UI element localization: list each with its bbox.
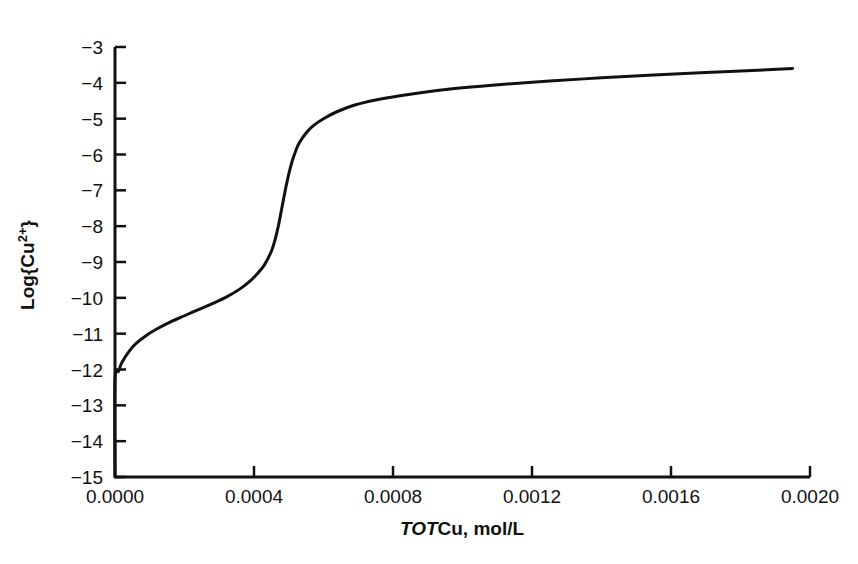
x-tick-label: 0.0004 xyxy=(225,486,284,507)
x-tick-label: 0.0012 xyxy=(503,486,561,507)
x-axis-title: TOTCu, mol/L xyxy=(400,518,525,539)
log-cu-titration-chart: −3−4−5−6−7−8−9−10−11−12−13−14−15 0.00000… xyxy=(0,0,858,564)
y-tick-label: −15 xyxy=(71,467,103,488)
y-tick-label: −13 xyxy=(71,395,103,416)
x-tick-label: 0.0008 xyxy=(364,486,422,507)
y-axis-title-tail: } xyxy=(17,220,38,228)
y-tick-label: −9 xyxy=(81,252,103,273)
x-axis-title-rest: Cu, mol/L xyxy=(438,518,525,539)
chart-background xyxy=(0,0,858,564)
x-axis-title-italic: TOT xyxy=(400,518,439,539)
svg-text:TOTCu, mol/L: TOTCu, mol/L xyxy=(400,518,525,539)
y-axis-title-superscript: 2+ xyxy=(15,227,30,242)
y-tick-label: −8 xyxy=(81,216,103,237)
y-tick-label: −14 xyxy=(71,431,104,452)
chart-figure: −3−4−5−6−7−8−9−10−11−12−13−14−15 0.00000… xyxy=(0,0,858,564)
x-tick-label: 0.0020 xyxy=(781,486,839,507)
y-tick-label: −6 xyxy=(81,145,103,166)
y-tick-label: −3 xyxy=(81,37,103,58)
x-tick-label: 0.0000 xyxy=(86,486,144,507)
y-axis-title-base: Log{Cu xyxy=(17,242,38,310)
y-tick-label: −11 xyxy=(72,324,103,345)
y-tick-label: −4 xyxy=(81,73,103,94)
y-tick-label: −10 xyxy=(71,288,103,309)
y-tick-label: −12 xyxy=(71,360,103,381)
y-tick-label: −7 xyxy=(81,180,103,201)
x-tick-label: 0.0016 xyxy=(642,486,700,507)
y-tick-label: −5 xyxy=(81,109,103,130)
